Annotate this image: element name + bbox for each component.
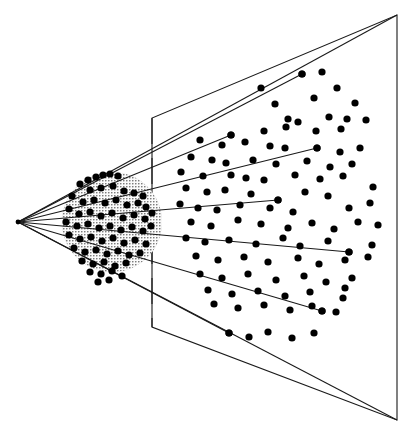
cluster-point-dot: [78, 257, 85, 264]
cluster-point-dot: [87, 233, 94, 240]
plane-point-dot: [192, 252, 199, 259]
plane-point-dot: [228, 290, 235, 297]
plane-point-dot: [225, 236, 232, 243]
cluster-point-dot: [136, 249, 143, 256]
cluster-point-dot: [109, 234, 116, 241]
cluster-point-dot: [117, 226, 124, 233]
plane-point-dot: [242, 174, 249, 181]
plane-point-dot: [284, 224, 291, 231]
plane-point-dot: [266, 142, 273, 149]
ray-endpoint-dot: [274, 196, 281, 203]
cluster-point-dot: [119, 214, 126, 221]
cluster-point-dot: [103, 250, 110, 257]
cluster-point-dot: [97, 212, 104, 219]
ray-endpoint-dot: [345, 248, 352, 255]
plane-point-dot: [351, 99, 358, 106]
plane-point-dot: [187, 153, 194, 160]
plane-point-dot: [213, 206, 220, 213]
cluster-point-dot: [75, 210, 82, 217]
plane-point-dot: [356, 144, 363, 151]
plane-point-dot: [204, 286, 211, 293]
plane-point-dot: [281, 292, 288, 299]
plane-point-dot: [312, 127, 319, 134]
cluster-point-dot: [108, 209, 115, 216]
plane-point-dot: [257, 220, 264, 227]
plane-point-dot: [210, 300, 217, 307]
plane-point-dot: [245, 333, 252, 340]
cluster-point-dot: [73, 222, 80, 229]
plane-point-dot: [308, 219, 315, 226]
plane-point-dot: [308, 302, 315, 309]
plane-point-dot: [301, 188, 308, 195]
plane-points-group: [176, 68, 381, 341]
ray-endpoint-dot: [298, 70, 305, 77]
cluster-point-dot: [90, 196, 97, 203]
plane-point-dot: [249, 156, 256, 163]
cluster-point-dot: [118, 272, 125, 279]
plane-point-dot: [354, 218, 361, 225]
plane-point-dot: [196, 270, 203, 277]
cluster-point-dot: [92, 173, 99, 180]
plane-point-dot: [294, 254, 301, 261]
plane-point-dot: [247, 190, 254, 197]
plane-point-dot: [234, 304, 241, 311]
plane-point-dot: [260, 301, 267, 308]
plane-point-dot: [257, 84, 264, 91]
cluster-point-dot: [95, 224, 102, 231]
cluster-point-dot: [70, 244, 77, 251]
plane-point-dot: [318, 68, 325, 75]
cluster-point-dot: [122, 259, 129, 266]
cluster-point-dot: [131, 236, 138, 243]
plane-point-dot: [324, 192, 331, 199]
plane-point-dot: [196, 136, 203, 143]
plane-point-dot: [281, 144, 288, 151]
plane-point-dot: [332, 308, 339, 315]
plane-point-dot: [343, 115, 350, 122]
plane-point-dot: [288, 334, 295, 341]
plane-point-dot: [282, 123, 289, 130]
plane-point-dot: [345, 204, 352, 211]
cluster-point-dot: [120, 187, 127, 194]
plane-point-dot: [333, 84, 340, 91]
plane-point-dot: [279, 234, 286, 241]
cluster-point-dot: [65, 231, 72, 238]
cluster-point-dot: [106, 170, 113, 177]
plane-point-dot: [222, 159, 229, 166]
cluster-point-dot: [141, 215, 148, 222]
cluster-point-dot: [130, 189, 137, 196]
plane-point-dot: [337, 125, 344, 132]
cluster-point-dot: [89, 260, 96, 267]
plane-point-dot: [218, 141, 225, 148]
cluster-point-dot: [100, 258, 107, 265]
plane-point-dot: [339, 172, 346, 179]
plane-point-dot: [203, 188, 210, 195]
cluster-point-dot: [139, 227, 146, 234]
ray-endpoint-dot: [318, 307, 325, 314]
cluster-point-dot: [123, 201, 130, 208]
plane-point-dot: [214, 256, 221, 263]
cluster-point-dot: [62, 218, 69, 225]
cluster-point-dot: [125, 251, 132, 258]
cluster-point-dot: [128, 223, 135, 230]
plane-point-dot: [300, 272, 307, 279]
cluster-point-dot: [130, 211, 137, 218]
cluster-point-dot: [147, 222, 154, 229]
plane-point-dot: [303, 157, 310, 164]
cluster-point-dot: [65, 205, 72, 212]
plane-point-dot: [194, 204, 201, 211]
plane-point-dot: [260, 176, 267, 183]
plane-point-dot: [362, 116, 369, 123]
cluster-point-dot: [94, 278, 101, 285]
cluster-point-dot: [120, 239, 127, 246]
plane-point-dot: [291, 171, 298, 178]
plane-point-dot: [341, 256, 348, 263]
projection-diagram: Perspective projection of a point cluste…: [0, 0, 413, 431]
plane-point-dot: [316, 175, 323, 182]
plane-point-dot: [322, 278, 329, 285]
plane-point-dot: [266, 204, 273, 211]
cluster-point-dot: [86, 208, 93, 215]
cluster-point-dot: [97, 270, 104, 277]
cluster-point-dot: [142, 240, 149, 247]
plane-point-dot: [208, 156, 215, 163]
plane-point-dot: [272, 276, 279, 283]
